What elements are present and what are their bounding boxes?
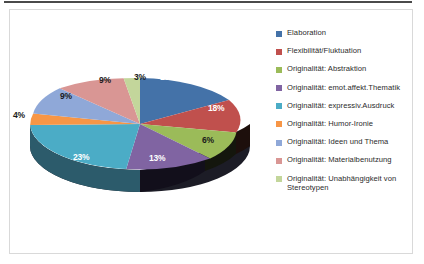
pie-label-expressiv: 23% <box>73 152 89 162</box>
legend-label: Originalität: Ideen und Thema <box>287 137 388 147</box>
legend-item-abstraktion[interactable]: Originalität: Abstraktion <box>276 64 424 74</box>
pie-chart-plot-area: 15% 18% 6% 13% 23% 4% 9% 9% 3% <box>10 10 272 253</box>
legend-item-unabhaengigkeit[interactable]: Originalität: Unabhängigkeit von Stereot… <box>276 174 424 193</box>
pie-graphic: 15% 18% 6% 13% 23% 4% 9% 9% 3% <box>24 52 256 202</box>
legend-item-elaboration[interactable]: Elaboration <box>276 28 424 38</box>
legend-swatch-icon <box>276 31 282 37</box>
legend-swatch-icon <box>276 85 282 91</box>
legend-swatch-icon <box>276 176 282 182</box>
pie-label-material: 9% <box>99 75 111 85</box>
legend-swatch-icon <box>276 103 282 109</box>
legend-label: Flexibilität/Fluktuation <box>287 46 361 56</box>
pie-label-elaboration: 15% <box>160 72 176 82</box>
legend-swatch-icon <box>276 140 282 146</box>
legend-label: Originalität: Humor-Ironie <box>287 119 373 129</box>
legend-label: Originalität: Abstraktion <box>287 64 366 74</box>
legend-item-expressiv-ausdruck[interactable]: Originalität: expressiv.Ausdruck <box>276 101 424 111</box>
chart-frame: 15% 18% 6% 13% 23% 4% 9% 9% 3% Elaborati… <box>9 9 413 254</box>
pie-label-ideen: 9% <box>60 91 72 101</box>
pie-label-humor-ironie: 4% <box>13 110 25 120</box>
legend-item-flexibilitaet[interactable]: Flexibilität/Fluktuation <box>276 46 424 56</box>
legend-item-materialbenutzung[interactable]: Originalität: Materialbenutzung <box>276 155 424 165</box>
legend-label: Originalität: expressiv.Ausdruck <box>287 101 394 111</box>
legend-swatch-icon <box>276 121 282 127</box>
pie-label-emot-affekt: 13% <box>149 153 165 163</box>
legend-swatch-icon <box>276 67 282 73</box>
pie-label-unabhaengigkeit: 3% <box>134 72 146 82</box>
legend-item-emot-affekt-thematik[interactable]: Originalität: emot.affekt.Thematik <box>276 83 424 93</box>
legend-item-ideen-und-thema[interactable]: Originalität: Ideen und Thema <box>276 137 424 147</box>
legend-item-humor-ironie[interactable]: Originalität: Humor-Ironie <box>276 119 424 129</box>
chart-legend: Elaboration Flexibilität/Fluktuation Ori… <box>276 28 424 201</box>
legend-swatch-icon <box>276 49 282 55</box>
legend-label: Originalität: Unabhängigkeit von Stereot… <box>287 174 424 193</box>
top-divider <box>4 1 412 3</box>
pie-label-flexibilitaet: 18% <box>208 103 224 113</box>
pie-label-abstraktion: 6% <box>202 135 214 145</box>
legend-label: Originalität: emot.affekt.Thematik <box>287 83 400 93</box>
legend-swatch-icon <box>276 158 282 164</box>
legend-label: Elaboration <box>287 28 326 38</box>
legend-label: Originalität: Materialbenutzung <box>287 155 392 165</box>
